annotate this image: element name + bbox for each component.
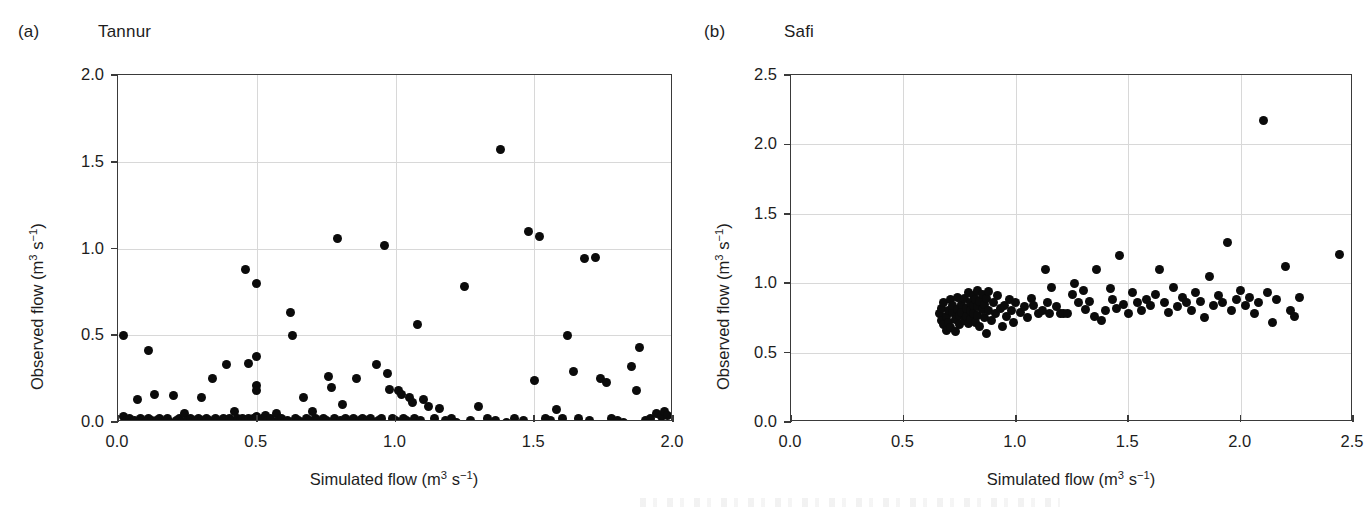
scatter-point [1106,284,1115,293]
scatter-point [1119,300,1128,309]
scatter-point [133,395,142,404]
scatter-point [591,253,600,262]
y-axis-tick-label: 2.0 [81,65,104,84]
scatter-point [1191,288,1200,297]
scatter-point [1164,308,1173,317]
scatter-point [430,414,439,420]
scatter-point [1068,290,1077,299]
y-axis-tick [111,248,118,250]
scatter-point [408,398,417,407]
scatter-point [1097,316,1106,325]
scatter-point [435,404,444,413]
gridline-vertical [903,75,904,420]
y-axis-tick [784,352,791,354]
x-axis-tick [790,415,792,422]
scatter-point [1218,298,1227,307]
scatter-point [352,374,361,383]
scatter-point [1223,238,1232,247]
scatter-point [552,405,561,414]
scatter-point [663,411,671,420]
scatter-point [1092,265,1101,274]
scatter-point [1245,293,1254,302]
panel-tannur: (a) Tannur Observed flow (m3 s−1) Simula… [0,0,686,516]
panel-b-tag: (b) [704,22,725,42]
scatter-point [510,414,519,420]
scatter-point [524,227,533,236]
scatter-point [1011,298,1020,307]
scatter-point [474,402,483,411]
x-axis-tick [1352,415,1354,422]
scatter-point [1290,312,1299,321]
x-axis-tick-label: 0.5 [244,432,267,451]
scatter-point [1272,295,1281,304]
scatter-point [252,386,261,395]
scatter-point [563,331,572,340]
scan-artifact [640,498,1060,507]
scatter-point [1259,116,1268,125]
scatter-point [380,241,389,250]
gridline-horizontal [118,249,671,250]
y-axis-tick [111,334,118,336]
gridline-vertical [1241,75,1242,420]
panel-a-tag: (a) [18,22,39,42]
scatter-point [1047,283,1056,292]
panel-safi: (b) Safi Observed flow (m3 s−1) Simulate… [686,0,1372,516]
gridline-vertical [257,75,258,420]
scatter-point [1081,305,1090,314]
scatter-point [169,391,178,400]
x-axis-tick [1015,415,1017,422]
panel-a-x-axis-title: Simulated flow (m3 s−1) [310,470,479,489]
y-axis-tick-label: 0.0 [754,412,777,431]
x-axis-tick-label: 2.0 [1228,432,1251,451]
y-axis-tick [784,74,791,76]
scatter-point [1196,297,1205,306]
x-axis-tick [533,415,535,422]
gridline-horizontal [118,162,671,163]
scatter-point [460,282,469,291]
scatter-point [1009,318,1018,327]
scatter-point [1023,313,1032,322]
scatter-point [619,418,628,421]
scatter-point [1070,279,1079,288]
scatter-point [252,279,261,288]
scatter-point [1128,288,1137,297]
x-axis-tick-label: 1.0 [1003,432,1026,451]
panel-b-title: Safi [784,22,814,42]
scatter-point [602,378,611,387]
x-axis-tick [672,415,674,422]
scatter-point [1200,313,1209,322]
y-axis-tick [784,144,791,146]
scatter-point [632,386,641,395]
scatter-point [144,346,153,355]
scatter-point [1295,293,1304,302]
y-axis-tick-label: 2.0 [754,134,777,153]
scatter-point [530,376,539,385]
scatter-point [1137,306,1146,315]
scatter-point [1007,306,1016,315]
scatter-point [1079,286,1088,295]
scatter-point [150,390,159,399]
scatter-point [208,374,217,383]
scatter-point [1263,288,1272,297]
scatter-point [546,416,555,420]
scatter-point [1232,295,1241,304]
scatter-point [327,383,336,392]
panel-a-y-axis-title: Observed flow (m3 s−1) [28,223,47,390]
x-axis-tick-label: 1.5 [522,432,545,451]
scatter-point [1335,250,1344,259]
scatter-point [1108,295,1117,304]
panel-b-x-axis-title: Simulated flow (m3 s−1) [987,470,1156,489]
scatter-point [288,331,297,340]
scatter-point [998,322,1007,331]
scatter-point [452,418,461,421]
scatter-point [377,414,386,420]
gridline-vertical [1128,75,1129,420]
scatter-point [984,287,993,296]
scatter-point [585,416,594,420]
scatter-point [574,414,583,420]
gridline-horizontal [118,335,671,336]
gridline-vertical [1016,75,1017,420]
scatter-point [466,416,475,420]
y-axis-tick-label: 0.0 [81,412,104,431]
scatter-point [569,367,578,376]
